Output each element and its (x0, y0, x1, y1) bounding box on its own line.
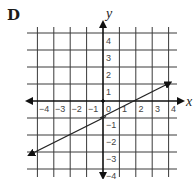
svg-text:3: 3 (106, 53, 111, 63)
x-tick-labels: −4 −3 −2 −1 0 1 2 3 4 (39, 104, 176, 114)
grid (27, 27, 177, 177)
svg-text:−4: −4 (106, 171, 116, 179)
svg-text:2: 2 (106, 70, 111, 80)
svg-text:3: 3 (155, 104, 160, 114)
svg-text:−1: −1 (88, 104, 98, 114)
svg-text:−2: −2 (106, 137, 116, 147)
svg-text:2: 2 (139, 104, 144, 114)
svg-text:−1: −1 (106, 120, 116, 130)
svg-text:4: 4 (106, 36, 111, 46)
svg-text:4: 4 (171, 104, 176, 114)
svg-text:−3: −3 (106, 154, 116, 164)
plotted-line-lower (29, 117, 106, 156)
y-axis-label: y (104, 6, 113, 21)
svg-text:−4: −4 (39, 104, 49, 114)
x-axis-label: x (185, 94, 193, 109)
coordinate-graph: x y −4 −3 −2 −1 0 1 2 3 4 4 3 2 1 −1 −2 … (0, 0, 196, 179)
svg-text:1: 1 (106, 87, 111, 97)
svg-text:−3: −3 (55, 104, 65, 114)
svg-text:−2: −2 (72, 104, 82, 114)
